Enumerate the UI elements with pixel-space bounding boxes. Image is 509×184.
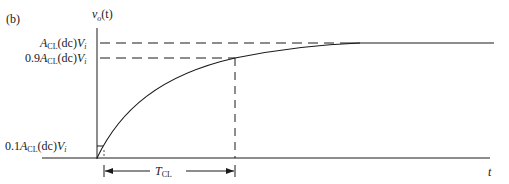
tcl-label: TCL: [155, 164, 172, 179]
x-axis-label: t: [488, 165, 492, 179]
final-value-label: ACL(dc)Vi: [39, 36, 86, 51]
ninety-percent-label: 0.9ACL(dc)Vi: [25, 51, 86, 66]
ten-percent-label: 0.1ACL(dc)Vi: [5, 139, 66, 154]
step-response-diagram: (b) vo(t) t ACL(dc)Vi 0.9ACL(dc)Vi 0.1AC…: [0, 0, 509, 184]
response-curve: [97, 43, 360, 158]
panel-label: (b): [6, 12, 20, 26]
y-axis-label: vo(t): [92, 7, 113, 23]
